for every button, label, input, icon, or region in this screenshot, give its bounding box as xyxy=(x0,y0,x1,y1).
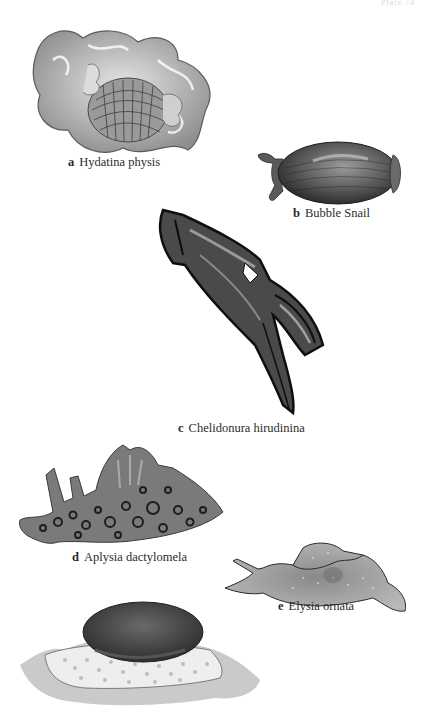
figure-f-illustration xyxy=(15,590,265,720)
figure-a-caption: aHydatina physis xyxy=(68,155,160,170)
figure-d-illustration xyxy=(18,440,226,548)
aplysia-dactylomela-image xyxy=(18,440,226,548)
bubble-snail-image xyxy=(253,133,403,208)
figure-a-name: Hydatina physis xyxy=(79,155,160,169)
figure-c-name: Chelidonura hirudinina xyxy=(189,421,305,435)
figure-e-caption: eElysia ornata xyxy=(278,599,354,614)
figure-d-letter: d xyxy=(72,550,79,564)
figure-c-letter: c xyxy=(178,421,184,435)
figure-b-illustration xyxy=(253,133,403,208)
chelidonura-hirudinina-image xyxy=(155,205,327,417)
unlabeled-slug-image xyxy=(15,590,265,720)
figure-d-caption: dAplysia dactylomela xyxy=(72,550,187,565)
figure-a-illustration xyxy=(28,20,218,160)
figure-a-letter: a xyxy=(68,155,74,169)
hydatina-physis-image xyxy=(28,20,218,160)
figure-e-name: Elysia ornata xyxy=(289,599,355,613)
figure-d-name: Aplysia dactylomela xyxy=(84,550,187,564)
figure-c-illustration xyxy=(155,205,327,417)
figure-e-letter: e xyxy=(278,599,284,613)
page-header: Plate 74 xyxy=(381,0,415,7)
figure-c-caption: cChelidonura hirudinina xyxy=(178,421,305,436)
